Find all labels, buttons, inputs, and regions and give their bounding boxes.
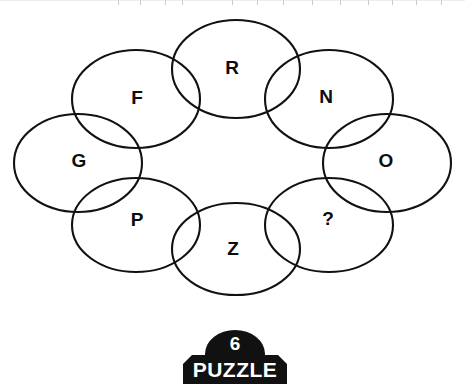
puzzle-letter-upper-right: N (319, 86, 333, 107)
puzzle-letter-far-right: O (379, 150, 394, 171)
puzzle-letter-far-left: G (72, 150, 87, 171)
puzzle-number-badge: 6 PUZZLE (183, 330, 287, 384)
puzzle-letter-lower-left: P (131, 209, 144, 230)
puzzle-letter-upper-left: F (131, 87, 143, 108)
puzzle-diagram: RFNGOPZ? 6 PUZZLE (0, 0, 465, 384)
badge-word-text: PUZZLE (193, 358, 278, 381)
puzzle-letter-top-center: R (225, 57, 239, 78)
puzzle-letter-lower-right: ? (322, 208, 334, 229)
badge-number-text: 6 (230, 333, 241, 354)
puzzle-canvas: RFNGOPZ? 6 PUZZLE (0, 0, 465, 384)
puzzle-letter-bottom-center: Z (227, 238, 239, 259)
